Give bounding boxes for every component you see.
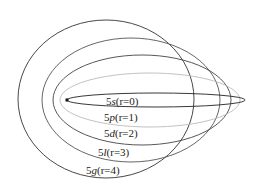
orbit-diagram-svg: 5g(r=4)5l(r=3)5d(r=2)5p(r=1)5s(r=0) bbox=[0, 0, 261, 196]
nucleus-dot bbox=[66, 99, 69, 102]
orbit-label-5d: 5d(r=2) bbox=[104, 127, 138, 140]
orbit-diagram: 5g(r=4)5l(r=3)5d(r=2)5p(r=1)5s(r=0) bbox=[0, 0, 261, 196]
orbit-label-5s: 5s(r=0) bbox=[106, 95, 139, 108]
orbit-5p bbox=[60, 73, 240, 127]
orbit-labels: 5g(r=4)5l(r=3)5d(r=2)5p(r=1)5s(r=0) bbox=[86, 95, 139, 177]
orbit-5d bbox=[53, 55, 231, 145]
orbit-5s bbox=[67, 93, 245, 107]
orbit-label-5g: 5g(r=4) bbox=[86, 164, 120, 177]
orbit-label-5l: 5l(r=3) bbox=[98, 146, 130, 159]
orbit-label-5p: 5p(r=1) bbox=[104, 111, 138, 124]
